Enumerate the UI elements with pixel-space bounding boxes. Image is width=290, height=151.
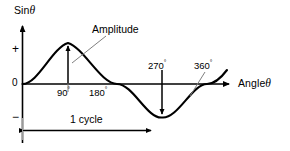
y-axis-negative-label: − <box>12 111 19 123</box>
y-axis-title-text: Sin <box>14 4 29 16</box>
x-tick-label-180: 180° <box>89 88 107 98</box>
y-axis-positive-label: + <box>12 43 19 55</box>
sine-wave-plot <box>0 0 290 151</box>
x-tick-value-360: 360 <box>194 60 210 71</box>
x-tick-value-270: 270 <box>148 60 164 71</box>
x-tick-value-90: 90 <box>57 87 68 98</box>
degree-symbol-180: ° <box>105 86 108 93</box>
x-tick-value-180: 180 <box>89 87 105 98</box>
origin-label: 0 <box>12 78 18 88</box>
cycle-label: 1 cycle <box>70 114 103 125</box>
sine-wave-diagram: Sinθ Angleθ + 0 − 90° 180° 270° 360° Amp… <box>0 0 290 151</box>
x-tick-label-360: 360° <box>194 61 212 71</box>
y-axis-title: Sinθ <box>14 5 35 17</box>
x-tick-label-270: 270° <box>148 61 166 71</box>
x-axis-theta-symbol: θ <box>265 77 271 89</box>
sine-curve <box>23 43 228 118</box>
x-axis-title: Angleθ <box>238 78 271 90</box>
degree-symbol-360: ° <box>210 59 213 66</box>
x-tick-label-90: 90° <box>57 88 70 98</box>
degree-symbol-270: ° <box>164 59 167 66</box>
amplitude-label: Amplitude <box>92 24 139 35</box>
x-axis-title-text: Angle <box>238 77 265 89</box>
degree-symbol-90: ° <box>68 86 71 93</box>
y-axis-theta-symbol: θ <box>29 4 35 16</box>
